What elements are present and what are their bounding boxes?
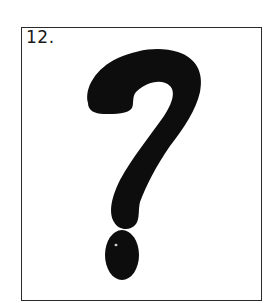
question-dot <box>105 230 139 280</box>
question-mark-icon <box>0 0 272 303</box>
